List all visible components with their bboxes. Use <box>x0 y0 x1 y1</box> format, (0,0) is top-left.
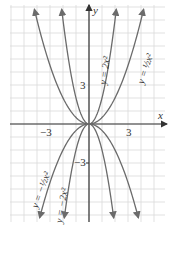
x-axis-label: x <box>158 110 163 121</box>
curve-0 <box>62 9 89 124</box>
curve-3 <box>89 124 138 218</box>
parabola-graph <box>0 0 175 264</box>
x-tick-3: 3 <box>126 127 132 138</box>
grid <box>10 5 165 222</box>
y-tick-3: 3 <box>80 80 86 91</box>
x-tick-neg3: −3 <box>40 127 52 138</box>
axes <box>10 5 167 222</box>
curve-1 <box>34 9 89 124</box>
curve-2 <box>64 124 89 218</box>
y-tick-neg3: −3 <box>74 157 86 168</box>
curve-2 <box>89 124 114 218</box>
curve-1 <box>89 9 144 124</box>
y-axis-label: y <box>93 5 98 16</box>
